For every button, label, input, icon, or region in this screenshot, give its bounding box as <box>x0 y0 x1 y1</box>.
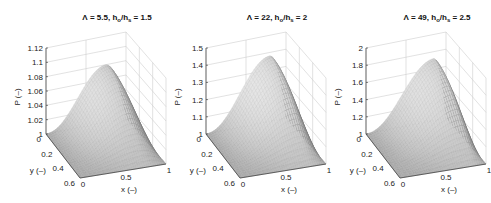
x-tick-label: 0 <box>81 180 86 189</box>
y-tick-label: 0.6 <box>384 179 396 188</box>
y-tick-label: 0 <box>197 135 202 144</box>
z-tick-label: 1.5 <box>192 44 204 53</box>
subplot-3: 11.21.41.61.8200.20.40.600.51P (–)y (–)x… <box>333 13 491 194</box>
y-tick-label: 0.2 <box>201 150 213 159</box>
y-tick-label: 0.6 <box>224 179 236 188</box>
x-tick-label: 0 <box>241 180 246 189</box>
z-axis-label: P (–) <box>13 88 22 106</box>
figure: 11.021.041.061.081.11.1200.20.40.600.51P… <box>0 0 491 203</box>
y-axis-label: y (–) <box>350 166 366 175</box>
z-axis-label: P (–) <box>333 88 342 106</box>
y-tick-label: 0.4 <box>53 164 65 173</box>
z-tick-label: 1.06 <box>27 87 43 96</box>
z-tick-label: 1.12 <box>27 44 43 53</box>
z-tick-label: 1.4 <box>192 61 204 70</box>
y-tick-label: 0.6 <box>64 179 76 188</box>
y-tick-label: 0 <box>357 135 362 144</box>
x-axis-label: x (–) <box>441 185 457 194</box>
subplot-2: 11.11.21.31.41.500.20.40.600.51P (–)y (–… <box>173 13 332 194</box>
x-tick-label: 1 <box>487 166 491 175</box>
y-axis-label: y (–) <box>190 166 206 175</box>
subplot-title: Λ = 22, ho/hs = 2 <box>247 13 308 23</box>
y-tick-label: 0.2 <box>41 150 53 159</box>
x-tick-label: 0.5 <box>120 173 132 182</box>
y-tick-label: 0.2 <box>361 150 373 159</box>
z-tick-label: 1.8 <box>352 61 364 70</box>
z-tick-label: 1.1 <box>32 58 44 67</box>
x-tick-label: 0.5 <box>280 173 292 182</box>
x-axis-label: x (–) <box>121 185 137 194</box>
x-tick-label: 1 <box>167 166 172 175</box>
x-axis-label: x (–) <box>281 185 297 194</box>
y-tick-label: 0.4 <box>213 164 225 173</box>
subplot-title: Λ = 5.5, ho/hs = 1.5 <box>82 13 152 23</box>
z-tick-label: 1.04 <box>27 101 43 110</box>
z-axis-label: P (–) <box>173 88 182 106</box>
pressure-surface <box>46 65 166 178</box>
z-tick-label: 1.3 <box>192 78 204 87</box>
z-tick-label: 2 <box>359 44 364 53</box>
x-tick-label: 0.5 <box>440 173 452 182</box>
z-tick-label: 1.6 <box>352 78 364 87</box>
z-tick-label: 1.08 <box>27 73 43 82</box>
z-tick-label: 1.2 <box>192 96 204 105</box>
y-tick-label: 0 <box>37 135 42 144</box>
y-axis-label: y (–) <box>30 166 46 175</box>
x-tick-label: 0 <box>401 180 406 189</box>
z-tick-label: 1.02 <box>27 116 43 125</box>
z-tick-label: 1.2 <box>352 113 364 122</box>
pressure-surface <box>366 59 486 179</box>
z-tick-label: 1.1 <box>192 113 204 122</box>
subplot-1: 11.021.041.061.081.11.1200.20.40.600.51P… <box>13 13 172 194</box>
surface-plots: 11.021.041.061.081.11.1200.20.40.600.51P… <box>0 0 491 203</box>
y-tick-label: 0.4 <box>373 164 385 173</box>
subplot-title: Λ = 49, ho/hs = 2.5 <box>403 13 471 23</box>
x-tick-label: 1 <box>327 166 332 175</box>
z-tick-label: 1.4 <box>352 96 364 105</box>
